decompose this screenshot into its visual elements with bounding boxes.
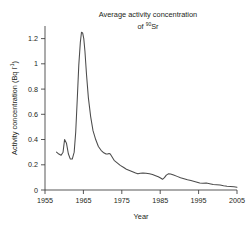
y-tick-label-0: 0 (34, 186, 38, 195)
x-tick-label-1: 1965 (75, 196, 91, 205)
x-tick-label-3: 1985 (152, 196, 168, 205)
x-tick-label-5: 2005 (229, 196, 245, 205)
y-tick-label-5: 1 (34, 59, 38, 68)
y-axis-title: Activity concentration (Bq l-1) (10, 61, 19, 155)
x-axis-title: Year (134, 212, 149, 221)
y-tick-label-4: 0.8 (28, 85, 38, 94)
x-tick-label-0: 1955 (37, 196, 53, 205)
y-axis-title-suffix: ) (10, 61, 19, 63)
chart-figure: Average activity concentration of 90Sr A… (0, 0, 247, 233)
y-axis-title-prefix: Activity concentration (Bq l (10, 68, 19, 155)
y-tick-label-3: 0.6 (28, 110, 38, 119)
chart-title-line-1: Average activity concentration (99, 10, 197, 19)
activity-concentration-line-chart: Average activity concentration of 90Sr A… (0, 0, 247, 233)
y-tick-label-6: 1.2 (28, 34, 38, 43)
chart-title-element-symbol: Sr (151, 22, 159, 31)
y-tick-label-2: 0.4 (28, 135, 38, 144)
y-tick-label-1: 0.2 (28, 160, 38, 169)
x-tick-label-2: 1975 (114, 196, 130, 205)
chart-title-of-prefix: of (137, 22, 145, 31)
x-tick-label-4: 1995 (191, 196, 207, 205)
